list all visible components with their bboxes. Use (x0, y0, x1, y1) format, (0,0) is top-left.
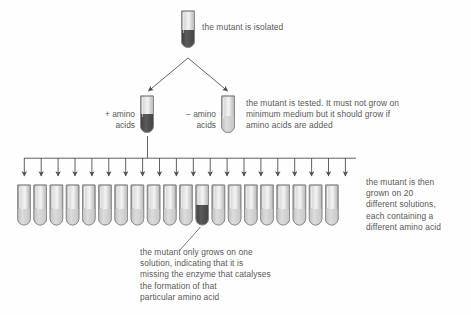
screening-tube (146, 185, 161, 229)
plus-amino-acids-label: + amino acids (82, 109, 135, 131)
screen-caption: the mutant is then grown on 20 different… (366, 177, 470, 233)
test-caption: the mutant is tested. It must not grow o… (246, 98, 468, 132)
isolate-caption: the mutant is isolated (202, 22, 283, 33)
screening-tube (325, 185, 340, 229)
screening-tube (211, 185, 226, 229)
screening-tube (163, 185, 178, 229)
plus-amino-acids-tube (140, 96, 154, 134)
screening-tube (49, 185, 64, 229)
screening-tube (17, 185, 32, 229)
split-arrows (149, 58, 228, 91)
screening-tube (227, 185, 242, 229)
screening-tube-row (17, 185, 339, 229)
arrow-to-minus-tube (188, 58, 228, 91)
screening-tube (292, 185, 307, 229)
screening-tube (130, 185, 145, 229)
screening-tube (33, 185, 48, 229)
screening-tube-growth (195, 185, 210, 229)
screening-tube (260, 185, 275, 229)
mutant-tube (181, 11, 195, 49)
screening-tube (98, 185, 113, 229)
distribution-manifold (24, 136, 356, 176)
minus-tube-medium (221, 116, 235, 134)
minus-amino-acids-label: − amino acids (163, 109, 216, 131)
screening-tube (276, 185, 291, 229)
screening-tube (65, 185, 80, 229)
screening-tube (114, 185, 129, 229)
screening-tube (179, 185, 194, 229)
screening-tube (308, 185, 323, 229)
screening-tube (244, 185, 259, 229)
conclusion-caption: the mutant only grows on one solution, i… (140, 247, 370, 303)
diagram-canvas: the mutant is isolated + amino acids − a… (0, 0, 471, 315)
arrow-to-plus-tube (149, 58, 189, 91)
minus-amino-acids-tube (221, 96, 235, 134)
screening-tube (82, 185, 97, 229)
